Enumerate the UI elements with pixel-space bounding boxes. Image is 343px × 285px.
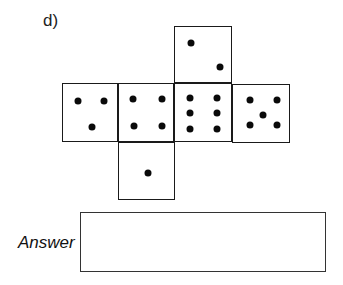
die-face-bottom — [118, 142, 175, 200]
pip-dot — [188, 40, 195, 47]
pip-dot — [247, 122, 254, 129]
pip-dot — [145, 170, 152, 177]
pip-dot — [131, 123, 138, 130]
pip-dot — [247, 97, 254, 104]
question-label: d) — [43, 11, 58, 31]
pip-dot — [217, 64, 224, 71]
pip-dot — [187, 95, 194, 102]
pip-dot — [214, 126, 221, 133]
die-face-left — [62, 83, 118, 142]
pip-dot — [130, 96, 137, 103]
pip-dot — [214, 110, 221, 117]
pip-dot — [101, 98, 108, 105]
pip-dot — [274, 122, 281, 129]
die-face-center — [174, 83, 232, 142]
pip-dot — [75, 98, 82, 105]
die-face-top — [174, 26, 232, 83]
pip-dot — [187, 126, 194, 133]
pip-dot — [89, 124, 96, 131]
answer-label: Answer — [18, 233, 75, 253]
die-face-right — [232, 84, 290, 143]
pip-dot — [274, 97, 281, 104]
pip-dot — [214, 95, 221, 102]
die-face-center-left — [118, 83, 174, 142]
pip-dot — [260, 112, 267, 119]
pip-dot — [159, 123, 166, 130]
pip-dot — [187, 110, 194, 117]
pip-dot — [159, 96, 166, 103]
answer-box[interactable] — [80, 212, 326, 272]
